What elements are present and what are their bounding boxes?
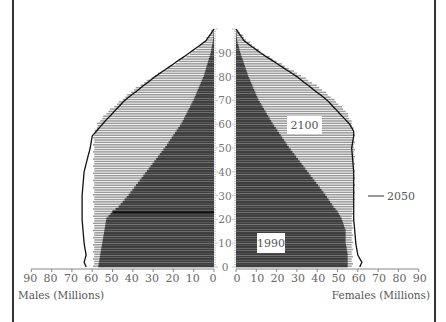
age-tick-label: 60 <box>218 118 231 130</box>
age-tick-label: 20 <box>218 213 231 225</box>
age-tick-label: 0 <box>222 261 229 273</box>
x-tick-label-female: 30 <box>291 272 305 285</box>
x-tick-label-female: 60 <box>352 272 366 285</box>
x-tick-label-male: 30 <box>145 272 159 285</box>
age-tick-label: 80 <box>218 71 231 83</box>
x-tick-label-male: 90 <box>23 272 37 285</box>
x-tick-label-female: 50 <box>332 272 346 285</box>
age-tick-label: 70 <box>218 94 231 106</box>
label-2050: 2050 <box>368 190 415 203</box>
age-tick-label: 50 <box>218 142 231 154</box>
label-2050-text: 2050 <box>387 190 415 203</box>
x-tick-label-female: 70 <box>372 272 386 285</box>
x-tick-label-male: 80 <box>44 272 58 285</box>
label-2100-text: 2100 <box>291 119 319 132</box>
age-tick-label: 30 <box>218 190 231 202</box>
females-axis-title: Females (Millions) <box>332 289 430 301</box>
x-tick-label-female: 40 <box>311 272 325 285</box>
x-tick-label-male: 50 <box>105 272 119 285</box>
x-tick-label-male: 0 <box>210 272 217 285</box>
males-axis-title: Males (Millions) <box>18 289 104 301</box>
age-tick-label: 90 <box>218 47 231 59</box>
label-1990-text: 1990 <box>257 237 285 250</box>
x-tick-label-male: 60 <box>84 272 98 285</box>
axes: 0010102020303040405050606070708080909001… <box>23 29 426 285</box>
x-tick-label-female: 80 <box>392 272 406 285</box>
age-tick-label: 10 <box>218 237 231 249</box>
x-tick-label-female: 90 <box>413 272 427 285</box>
label-1990: 1990 <box>257 233 285 253</box>
x-tick-label-female: 10 <box>250 272 264 285</box>
x-tick-label-male: 10 <box>186 272 200 285</box>
x-tick-label-male: 70 <box>64 272 78 285</box>
x-tick-label-female: 20 <box>271 272 285 285</box>
x-tick-label-female: 0 <box>234 272 241 285</box>
population-pyramid-chart: 0010102020303040405050606070708080909001… <box>0 0 446 322</box>
x-tick-label-male: 40 <box>125 272 139 285</box>
age-tick-label: 40 <box>218 166 231 178</box>
x-tick-label-male: 20 <box>165 272 179 285</box>
label-2100: 2100 <box>287 116 322 134</box>
